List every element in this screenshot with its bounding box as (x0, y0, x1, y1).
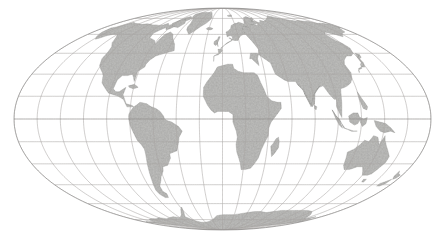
world-map-figure (0, 0, 445, 243)
world-map-canvas (0, 0, 445, 243)
